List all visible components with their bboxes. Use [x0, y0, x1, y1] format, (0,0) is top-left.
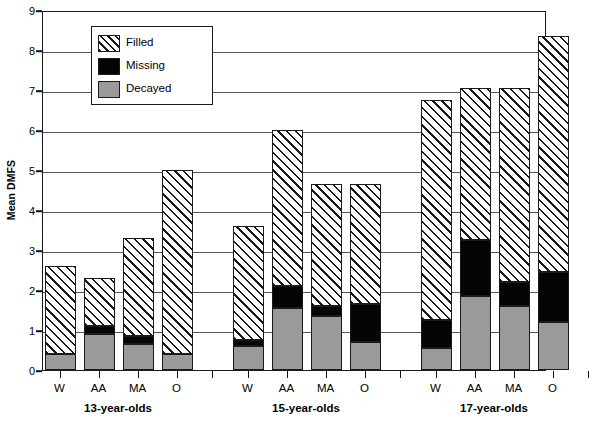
- bar-segment-missing: [538, 272, 569, 322]
- legend-label-filled: Filled: [126, 37, 153, 49]
- stacked-bar: [162, 170, 193, 370]
- x-tick-mark: [138, 371, 139, 378]
- x-tick-label: AA: [279, 382, 294, 394]
- x-tick-mark: [287, 371, 288, 378]
- x-tick-label: AA: [91, 382, 106, 394]
- x-tick-mark-separator: [400, 371, 401, 378]
- x-tick-label: MA: [129, 382, 146, 394]
- stacked-bar: [233, 226, 264, 370]
- bar-segment-filled: [272, 130, 303, 286]
- legend-label-missing: Missing: [126, 60, 165, 72]
- x-tick-label: AA: [467, 382, 482, 394]
- legend: Filled Missing Decayed: [91, 26, 213, 105]
- y-tick-label: 0: [29, 366, 35, 377]
- x-axis-group-labels: 13-year-olds15-year-olds17-year-olds: [42, 402, 546, 420]
- bar-segment-missing: [84, 326, 115, 334]
- bar-segment-filled: [421, 100, 452, 320]
- stacked-bar: [84, 278, 115, 370]
- bar-segment-missing: [460, 240, 491, 296]
- bar-segment-decayed: [311, 316, 342, 370]
- x-tick-mark: [436, 371, 437, 378]
- bar-segment-missing: [272, 286, 303, 308]
- x-tick-mark: [248, 371, 249, 378]
- x-tick-mark: [514, 371, 515, 378]
- y-tick-label: 7: [29, 86, 35, 97]
- stacked-bar: [123, 238, 154, 370]
- x-tick-label: MA: [505, 382, 522, 394]
- gray-swatch-icon: [98, 81, 120, 98]
- hatched-swatch-icon: [98, 35, 120, 52]
- group-label: 13-year-olds: [84, 402, 152, 414]
- stacked-bar: [311, 184, 342, 370]
- bar-segment-filled: [499, 88, 530, 282]
- x-axis-labels: WAAMAOWAAMAOWAAMAO: [42, 382, 546, 398]
- bar-segment-filled: [350, 184, 381, 304]
- bar-segment-decayed: [45, 354, 76, 370]
- bar-segment-decayed: [421, 348, 452, 370]
- bar-segment-missing: [421, 320, 452, 348]
- x-tick-mark: [475, 371, 476, 378]
- bar-segment-missing: [499, 282, 530, 306]
- x-tick-mark: [99, 371, 100, 378]
- x-axis-ticks: [42, 371, 546, 381]
- legend-label-decayed: Decayed: [126, 83, 171, 95]
- x-tick-mark: [177, 371, 178, 378]
- bar-segment-decayed: [84, 334, 115, 370]
- legend-item-filled: Filled: [98, 32, 206, 54]
- y-tick-label: 5: [29, 166, 35, 177]
- bar-segment-missing: [233, 340, 264, 346]
- x-tick-mark-separator: [212, 371, 213, 378]
- bar-segment-filled: [311, 184, 342, 306]
- bar-segment-filled: [45, 266, 76, 354]
- x-tick-mark: [60, 371, 61, 378]
- bar-segment-decayed: [538, 322, 569, 370]
- group-label: 17-year-olds: [460, 402, 528, 414]
- stacked-bar: [272, 130, 303, 370]
- legend-item-decayed: Decayed: [98, 78, 206, 100]
- x-tick-label: MA: [317, 382, 334, 394]
- bar-segment-decayed: [162, 354, 193, 370]
- bar-segment-filled: [162, 170, 193, 354]
- stacked-bar: [350, 184, 381, 370]
- x-tick-label: O: [172, 382, 181, 394]
- bar-segment-decayed: [123, 344, 154, 370]
- bar-segment-missing: [350, 304, 381, 342]
- y-tick-label: 3: [29, 246, 35, 257]
- legend-item-missing: Missing: [98, 55, 206, 77]
- x-tick-label: W: [242, 382, 253, 394]
- y-tick-label: 1: [29, 326, 35, 337]
- bar-segment-filled: [538, 36, 569, 272]
- stacked-bar: [538, 36, 569, 370]
- group-label: 15-year-olds: [272, 402, 340, 414]
- stacked-bar: [45, 266, 76, 370]
- bar-segment-missing: [123, 336, 154, 344]
- bar-segment-filled: [123, 238, 154, 336]
- x-tick-mark: [365, 371, 366, 378]
- bar-segment-decayed: [233, 346, 264, 370]
- plot-area: Filled Missing Decayed: [42, 11, 546, 371]
- x-tick-label: W: [54, 382, 65, 394]
- bar-segment-filled: [460, 88, 491, 240]
- stacked-bar: [499, 88, 530, 370]
- bar-segment-decayed: [350, 342, 381, 370]
- bar-segment-missing: [311, 306, 342, 316]
- stacked-bar: [460, 88, 491, 370]
- y-tick-label: 8: [29, 46, 35, 57]
- x-tick-label: W: [430, 382, 441, 394]
- x-tick-label: O: [548, 382, 557, 394]
- y-tick-label: 6: [29, 126, 35, 137]
- x-tick-label: O: [360, 382, 369, 394]
- y-tick-label: 2: [29, 286, 35, 297]
- x-tick-mark: [553, 371, 554, 378]
- bar-segment-filled: [233, 226, 264, 340]
- y-tick-label: 9: [29, 6, 35, 17]
- bar-segment-decayed: [499, 306, 530, 370]
- bar-segment-decayed: [272, 308, 303, 370]
- x-tick-mark: [326, 371, 327, 378]
- y-axis-ticks: 0123456789: [0, 0, 42, 382]
- bar-segment-filled: [84, 278, 115, 326]
- y-tick-label: 4: [29, 206, 35, 217]
- bar-segment-decayed: [460, 296, 491, 370]
- stacked-bar: [421, 100, 452, 370]
